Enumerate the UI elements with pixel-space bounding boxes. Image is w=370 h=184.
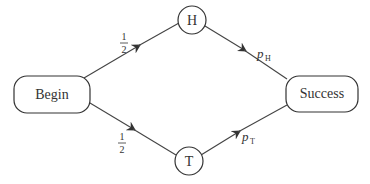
- probability-diagram: Begin Success H T 1 2 1 2 p H p T: [0, 0, 370, 184]
- label-begin-to-t: 1 2: [118, 131, 126, 155]
- label-h-to-success: p H: [256, 46, 271, 63]
- fraction-numerator: 1: [122, 31, 127, 42]
- probability-symbol: p: [241, 129, 249, 144]
- node-tails-label: T: [185, 154, 194, 169]
- probability-symbol: p: [256, 46, 264, 61]
- label-begin-to-h: 1 2: [120, 31, 128, 55]
- probability-subscript: H: [265, 54, 271, 63]
- node-tails: T: [175, 147, 203, 175]
- node-begin-label: Begin: [35, 87, 68, 102]
- node-success-label: Success: [300, 86, 344, 101]
- fraction-numerator: 1: [120, 131, 125, 142]
- fraction-denominator: 2: [122, 44, 127, 55]
- node-heads-label: H: [187, 13, 197, 28]
- label-t-to-success: p T: [241, 129, 255, 146]
- edge-h-to-success: [205, 26, 287, 79]
- node-heads: H: [178, 6, 206, 34]
- node-begin: Begin: [14, 76, 90, 113]
- edge-begin-to-t: [90, 103, 176, 155]
- edge-begin-to-h: [84, 23, 179, 78]
- fraction-denominator: 2: [120, 144, 125, 155]
- probability-subscript: T: [250, 137, 255, 146]
- node-success: Success: [286, 76, 358, 112]
